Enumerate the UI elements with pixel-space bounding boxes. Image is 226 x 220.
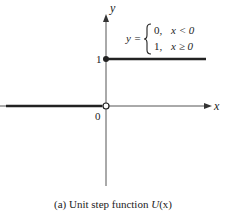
- origin-label: 0: [95, 110, 101, 122]
- piecewise-equation: y = 0, x < 0 1, x ≥ 0: [125, 24, 195, 54]
- case-2-value: 1,: [154, 40, 163, 52]
- open-endpoint-marker: [103, 103, 109, 109]
- caption-function-arg: (x): [159, 198, 172, 210]
- y-axis-arrow-icon: [103, 14, 109, 22]
- x-axis-arrow-icon: [204, 103, 212, 109]
- case-1-condition: x < 0: [170, 24, 195, 36]
- x-axis-label: x: [213, 99, 220, 113]
- brace-icon: [144, 24, 151, 54]
- closed-endpoint-marker: [103, 56, 109, 62]
- y-axis-label: y: [109, 1, 116, 15]
- figure-caption: (a) Unit step function U(x): [0, 198, 226, 210]
- unit-step-plot: y x 0 1 y = 0, x < 0 1, x ≥ 0: [0, 0, 226, 220]
- case-2-condition: x ≥ 0: [170, 40, 193, 52]
- equation-lhs: y =: [125, 32, 141, 44]
- caption-text: (a) Unit step function: [54, 198, 151, 210]
- case-1-value: 0,: [154, 24, 163, 36]
- y-tick-label-1: 1: [96, 53, 102, 65]
- caption-function-name: U: [151, 198, 159, 210]
